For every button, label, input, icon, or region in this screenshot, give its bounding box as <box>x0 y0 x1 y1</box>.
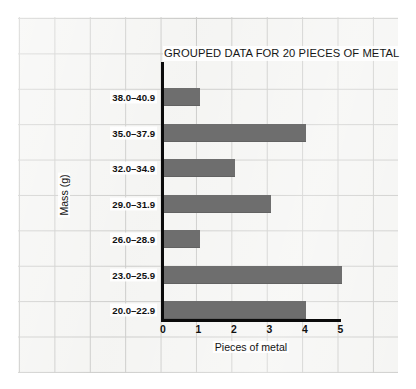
x-axis-tick-label: 2 <box>231 324 237 335</box>
y-axis-category-label: 35.0–37.9 <box>110 126 157 139</box>
bar-row[interactable]: 35.0–37.9 <box>164 124 306 142</box>
bar[interactable] <box>164 159 235 177</box>
bar-chart-plot: GROUPED DATA FOR 20 PIECES OF METAL 20.0… <box>0 0 416 389</box>
x-axis-tick-label: 0 <box>160 324 166 335</box>
y-axis-category-label: 38.0–40.9 <box>110 91 157 104</box>
x-axis-tick-label: 3 <box>267 324 273 335</box>
bar[interactable] <box>164 195 271 213</box>
bar[interactable] <box>164 124 306 142</box>
bar[interactable] <box>164 88 200 106</box>
y-axis-category-label: 32.0–34.9 <box>110 162 157 175</box>
x-axis-tick-label: 1 <box>196 324 202 335</box>
x-axis-tick-label: 5 <box>338 324 344 335</box>
bar-row[interactable]: 26.0–28.9 <box>164 230 200 248</box>
bar-row[interactable]: 20.0–22.9 <box>164 301 306 319</box>
bar-row[interactable]: 23.0–25.9 <box>164 266 342 284</box>
y-axis-category-label: 20.0–22.9 <box>110 304 157 317</box>
chart-screenshot: GROUPED DATA FOR 20 PIECES OF METAL 20.0… <box>0 0 416 389</box>
bar[interactable] <box>164 230 200 248</box>
x-axis-tick-label: 4 <box>302 324 308 335</box>
bar-row[interactable]: 38.0–40.9 <box>164 88 200 106</box>
bar-row[interactable]: 32.0–34.9 <box>164 159 235 177</box>
bar[interactable] <box>164 301 306 319</box>
bar[interactable] <box>164 266 342 284</box>
x-axis-line <box>161 319 341 322</box>
y-axis-title: Mass (g) <box>58 172 70 217</box>
y-axis-category-label: 23.0–25.9 <box>110 268 157 281</box>
x-axis-title: Pieces of metal <box>213 341 289 353</box>
chart-title: GROUPED DATA FOR 20 PIECES OF METAL <box>163 46 401 61</box>
y-axis-category-label: 29.0–31.9 <box>110 197 157 210</box>
y-axis-category-label: 26.0–28.9 <box>110 233 157 246</box>
bar-row[interactable]: 29.0–31.9 <box>164 195 271 213</box>
